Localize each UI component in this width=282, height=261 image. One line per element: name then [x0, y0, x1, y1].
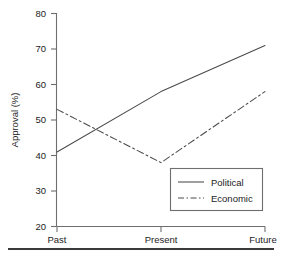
- y-tick-label-50: 50: [35, 114, 46, 125]
- series-line-political: [57, 45, 265, 152]
- legend-label-political: Political: [211, 177, 244, 188]
- x-tick-label-present: Present: [145, 234, 178, 245]
- approval-line-chart: 20 30 40 50 60 70 80 Approval (%) Past P…: [0, 0, 282, 261]
- legend-box: [171, 169, 263, 211]
- x-tick-label-past: Past: [47, 234, 66, 245]
- series-line-economic: [57, 92, 265, 163]
- x-tick-label-future: Future: [249, 234, 276, 245]
- legend-label-economic: Economic: [211, 193, 253, 204]
- y-tick-label-40: 40: [35, 150, 46, 161]
- y-axis-title: Approval (%): [9, 93, 20, 148]
- y-tick-label-60: 60: [35, 79, 46, 90]
- y-tick-label-70: 70: [35, 43, 46, 54]
- legend: Political Economic: [171, 169, 263, 211]
- plot-area: 20 30 40 50 60 70 80 Approval (%) Past P…: [0, 0, 282, 261]
- y-tick-label-20: 20: [35, 221, 46, 232]
- y-tick-label-80: 80: [35, 8, 46, 19]
- y-tick-label-30: 30: [35, 185, 46, 196]
- footer-divider: [8, 248, 274, 250]
